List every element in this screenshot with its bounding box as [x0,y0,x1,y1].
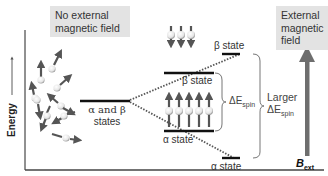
b-ext-label: Bext [296,157,314,171]
delta-e-prefix: ΔE [229,95,242,106]
external-field-label-box: External magnetic field [276,6,328,50]
delta-e-sub: spin [242,101,255,108]
external-field-line2: magnetic [281,22,323,35]
alpha-state-label-large: α state [211,161,241,172]
no-field-line2: magnetic field [55,22,125,35]
no-field-label-box: No external magnetic field [50,6,130,37]
degenerate-label-line1: α and β [88,104,126,115]
larger-delta-e-prefix: ΔE [267,103,281,115]
larger-delta-e-sub: spin [281,110,294,117]
degenerate-label: α and β states [87,104,127,128]
b-symbol: B [296,157,304,169]
degenerate-label-line2: states [87,116,127,128]
beta-state-label-small: β state [182,75,212,86]
random-spins [31,53,78,142]
alpha-spins [165,96,213,127]
external-field-line3: field [281,34,323,47]
larger-delta-e-spin: Larger ΔEspin [267,91,297,120]
beta-spins [167,26,195,44]
delta-e-spin-small: ΔEspin [229,95,255,108]
external-field-line1: External [281,9,323,22]
field-arrow [299,46,315,156]
larger-word: Larger [267,91,297,103]
alpha-state-label-small: α state [163,134,193,145]
brace-small [215,73,226,131]
energy-axis-label: Energy [6,103,17,137]
b-subscript: ext [304,164,314,171]
beta-state-label-large: β state [214,40,244,51]
no-field-line1: No external [55,9,125,22]
